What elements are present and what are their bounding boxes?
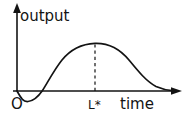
output-vs-time-figure: output time O L* xyxy=(0,0,187,123)
origin-label: O xyxy=(11,97,23,112)
x-axis-label: time xyxy=(120,97,154,112)
peak-tick-label: L* xyxy=(88,99,101,111)
y-axis-label: output xyxy=(20,9,69,24)
x-axis xyxy=(13,87,182,95)
